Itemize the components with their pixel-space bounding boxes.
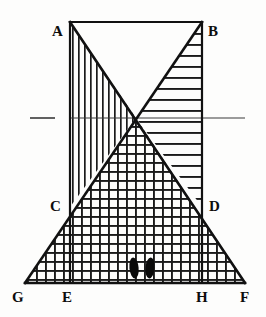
geometry-figure: A B C D G E H F [0, 0, 266, 317]
vertex-label-g: G [12, 290, 24, 305]
vertex-label-a: A [52, 24, 63, 39]
vertex-label-d: D [209, 199, 220, 214]
vertex-label-f: F [240, 290, 249, 305]
vertex-label-e: E [62, 290, 72, 305]
vertex-label-c: C [50, 199, 61, 214]
vertex-label-b: B [208, 24, 218, 39]
vertex-label-h: H [196, 290, 208, 305]
figure-canvas [0, 0, 266, 317]
